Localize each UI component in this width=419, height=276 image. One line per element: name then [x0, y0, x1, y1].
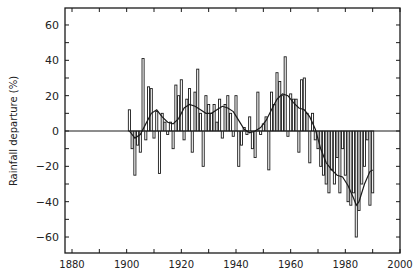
bar — [251, 131, 253, 149]
bar — [331, 131, 333, 170]
bar — [260, 131, 262, 135]
bar — [147, 87, 149, 131]
x-tick-label: 1980 — [333, 259, 358, 270]
y-tick-label: −60 — [36, 231, 59, 244]
bar — [257, 92, 259, 131]
bar — [164, 122, 166, 131]
bar — [202, 131, 204, 166]
bar-series — [128, 57, 373, 237]
rainfall-departure-chart: −60−40−200204060 18801900192019401960198… — [0, 0, 419, 276]
x-tick-label: 1960 — [278, 259, 303, 270]
y-tick-label: 60 — [45, 19, 59, 32]
bar — [355, 131, 357, 237]
bar — [336, 131, 338, 158]
bar — [301, 80, 303, 131]
bar — [178, 96, 180, 131]
bar — [188, 89, 190, 131]
y-tick-label: −20 — [36, 160, 59, 173]
bar — [287, 131, 289, 136]
bar — [167, 131, 169, 135]
bar — [142, 59, 144, 131]
bar — [199, 113, 201, 131]
y-axis-title: Rainfall departure (%) — [8, 76, 19, 186]
y-tick-label: −40 — [36, 196, 59, 209]
bar — [240, 131, 242, 145]
bar — [363, 131, 365, 166]
x-tick-label: 1920 — [169, 259, 194, 270]
x-tick-label: 1940 — [223, 259, 248, 270]
bar — [309, 131, 311, 163]
bar — [175, 85, 177, 131]
bar — [156, 112, 158, 131]
bar — [366, 131, 368, 140]
bar — [219, 99, 221, 131]
bar — [281, 96, 283, 131]
bar — [221, 131, 223, 138]
bar — [254, 131, 256, 158]
y-tick-label: 20 — [45, 90, 59, 103]
bar — [191, 131, 193, 152]
bar — [344, 131, 346, 175]
bar — [306, 113, 308, 131]
bar — [249, 117, 251, 131]
bar — [229, 113, 231, 131]
bar — [361, 131, 363, 184]
bar — [268, 131, 270, 170]
bar — [352, 131, 354, 193]
bar — [232, 131, 234, 136]
bar — [273, 105, 275, 132]
bar — [150, 89, 152, 131]
bar — [210, 113, 212, 131]
bar — [194, 92, 196, 131]
bar — [172, 131, 174, 149]
bar — [303, 78, 305, 131]
bar — [128, 110, 130, 131]
bar — [224, 105, 226, 132]
bar — [284, 57, 286, 131]
x-tick-label: 2000 — [387, 259, 412, 270]
bar — [183, 131, 185, 140]
bar — [153, 131, 155, 138]
x-tick-label: 1900 — [114, 259, 139, 270]
y-tick-label: 0 — [52, 125, 59, 138]
bar — [339, 131, 341, 193]
bar — [372, 131, 374, 193]
bar — [180, 80, 182, 131]
bar — [238, 131, 240, 166]
bar — [325, 131, 327, 184]
bar — [333, 131, 335, 184]
x-tick-label: 1880 — [59, 259, 84, 270]
bar — [227, 96, 229, 131]
bar — [235, 96, 237, 131]
bar — [369, 131, 371, 205]
bar — [328, 131, 330, 193]
bar — [298, 131, 300, 152]
bar — [208, 105, 210, 132]
bar — [213, 105, 215, 132]
bar — [347, 131, 349, 202]
bar — [216, 122, 218, 131]
bar — [279, 82, 281, 131]
bar — [158, 131, 160, 173]
bar — [342, 131, 344, 149]
bar — [137, 131, 139, 145]
bar — [186, 99, 188, 131]
y-tick-label: 40 — [45, 54, 59, 67]
bar — [197, 69, 199, 131]
bar — [145, 131, 147, 140]
